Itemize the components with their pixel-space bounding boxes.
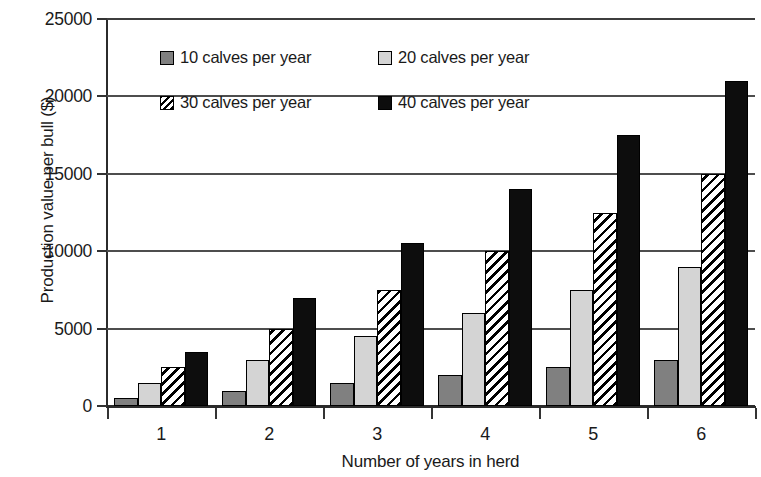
bar xyxy=(593,213,617,407)
x-axis-title: Number of years in herd xyxy=(0,452,761,472)
bar xyxy=(354,336,378,406)
bar xyxy=(570,290,594,406)
bar xyxy=(161,367,185,406)
bar xyxy=(654,360,678,406)
legend-item: 20 calves per year xyxy=(378,48,596,67)
legend-item: 10 calves per year xyxy=(160,48,378,67)
bar xyxy=(222,391,246,406)
y-axis-tick-label: 15000 xyxy=(0,163,92,184)
bar xyxy=(678,267,702,406)
y-axis-tick-mark xyxy=(97,173,107,175)
bar xyxy=(293,298,317,406)
x-axis-tick-mark xyxy=(431,408,433,419)
x-axis-tick-mark xyxy=(647,408,649,419)
bar xyxy=(401,243,425,406)
x-axis-tick-label: 4 xyxy=(480,424,490,445)
legend-swatch-icon xyxy=(378,96,392,110)
bar xyxy=(725,81,749,406)
legend-label: 20 calves per year xyxy=(398,48,529,67)
legend-label: 30 calves per year xyxy=(180,93,311,112)
y-axis-tick-mark xyxy=(97,250,107,252)
x-axis-tick-label: 3 xyxy=(372,424,382,445)
x-axis-tick-mark xyxy=(215,408,217,419)
bar xyxy=(269,329,293,406)
legend-swatch-icon xyxy=(160,96,174,110)
x-axis-tick-mark xyxy=(755,408,757,419)
bar xyxy=(438,375,462,406)
legend-label: 10 calves per year xyxy=(180,48,311,67)
y-axis-tick-mark xyxy=(97,328,107,330)
bar xyxy=(509,189,533,406)
x-axis-tick-label: 2 xyxy=(264,424,274,445)
bar xyxy=(185,352,209,406)
bar xyxy=(246,360,270,406)
bar xyxy=(114,398,138,406)
y-axis-tick-label: 10000 xyxy=(0,241,92,262)
y-axis-tick-label: 0 xyxy=(0,396,92,417)
x-axis-tick-label: 5 xyxy=(588,424,598,445)
legend-swatch-icon xyxy=(160,51,174,65)
legend-label: 40 calves per year xyxy=(398,93,529,112)
x-axis-tick-mark xyxy=(107,408,109,419)
chart-legend: 10 calves per year20 calves per year30 c… xyxy=(160,48,560,112)
legend-swatch-icon xyxy=(378,51,392,65)
y-axis-tick-labels: 0500010000150002000025000 xyxy=(0,0,92,477)
bar-group xyxy=(647,19,755,406)
bar xyxy=(377,290,401,406)
x-axis-tick-mark xyxy=(323,408,325,419)
bar xyxy=(485,251,509,406)
y-axis-tick-label: 25000 xyxy=(0,9,92,30)
y-axis-tick-mark xyxy=(97,18,107,20)
legend-item: 40 calves per year xyxy=(378,93,596,112)
x-axis-tick-mark xyxy=(539,408,541,419)
bar xyxy=(330,383,354,406)
y-axis-tick-label: 20000 xyxy=(0,86,92,107)
legend-item: 30 calves per year xyxy=(160,93,378,112)
bar xyxy=(701,174,725,406)
bar xyxy=(138,383,162,406)
y-axis-tick-label: 5000 xyxy=(0,318,92,339)
bar xyxy=(462,313,486,406)
bar-chart: Production value per bull ($) 0500010000… xyxy=(0,0,761,477)
x-axis-tick-label: 1 xyxy=(156,424,166,445)
bar xyxy=(617,135,641,406)
bar xyxy=(546,367,570,406)
y-axis-tick-mark xyxy=(97,95,107,97)
y-axis-tick-mark xyxy=(97,405,107,407)
x-axis-tick-label: 6 xyxy=(696,424,706,445)
